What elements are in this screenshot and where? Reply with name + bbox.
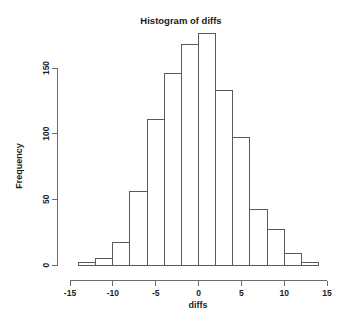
histogram-bar [284, 253, 301, 265]
histogram-bar [301, 262, 318, 265]
histogram-bar [79, 262, 96, 265]
y-tick-label: 50 [41, 194, 51, 204]
histogram-bar [199, 34, 216, 265]
x-axis-label: diffs [189, 300, 208, 310]
histogram-bar [130, 191, 147, 265]
x-tick-label: -15 [64, 288, 77, 298]
x-tick-label: -5 [152, 288, 160, 298]
chart-title: Histogram of diffs [140, 15, 221, 26]
x-tick-label: 0 [196, 288, 201, 298]
histogram-bar [96, 258, 113, 265]
x-tick-label: 10 [279, 288, 289, 298]
x-tick-label: 5 [239, 288, 244, 298]
y-axis-label: Frequency [14, 143, 24, 189]
histogram-bar [267, 230, 284, 265]
y-tick-label: 150 [41, 61, 51, 75]
histogram-bar [164, 73, 181, 265]
y-tick-label: 0 [41, 262, 51, 267]
histogram-bar [216, 90, 233, 265]
x-tick-label: -10 [107, 288, 120, 298]
histogram-bar [181, 44, 198, 265]
histogram-bar [147, 119, 164, 265]
histogram-plot-panel: Histogram of diffs 050100150 -15-10-5051… [0, 0, 356, 325]
histogram-chart: Histogram of diffs 050100150 -15-10-5051… [0, 0, 356, 325]
histogram-bar [250, 210, 267, 265]
y-tick-label: 100 [41, 126, 51, 140]
x-tick-label: 15 [322, 288, 332, 298]
histogram-bar [113, 243, 130, 265]
histogram-bar [233, 138, 250, 265]
